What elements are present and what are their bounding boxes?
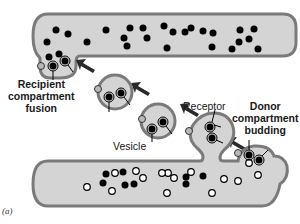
label-receptor: Receptor [183,100,226,112]
label-line: budding [232,124,299,136]
vesicle-1 [95,75,133,112]
label-recipient-fusion: Recipient compartment fusion [8,78,75,114]
label-line: compartment [8,90,75,102]
label-line: Recipient [8,78,75,90]
panel-label: (a) [2,206,13,216]
label-donor-budding: Donor compartment budding [232,100,299,136]
label-vesicle: Vesicle [113,140,146,152]
recipient-compartment [33,14,296,80]
label-line: compartment [232,112,299,124]
label-line: Donor [232,100,299,112]
vesicle-2 [139,104,176,142]
label-line: fusion [8,102,75,114]
